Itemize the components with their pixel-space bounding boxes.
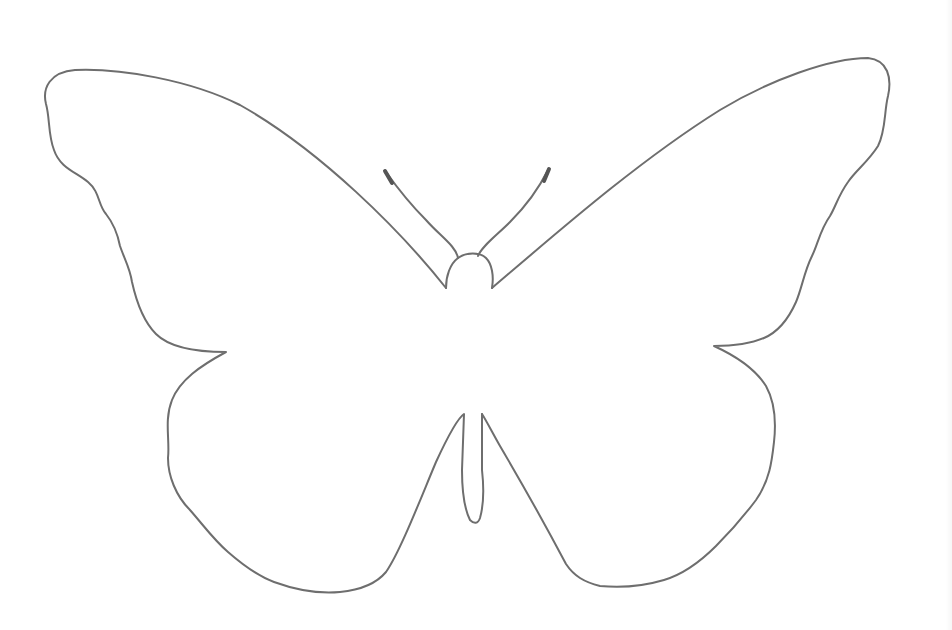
right-wing — [482, 58, 889, 587]
head — [446, 254, 493, 289]
right-antenna-tip-icon — [544, 169, 549, 181]
image-canvas: Butterfly outline — [0, 0, 952, 630]
right-antenna — [478, 170, 548, 256]
butterfly-outline-drawing — [0, 0, 952, 630]
left-antenna-tip-icon — [385, 171, 392, 183]
left-antenna — [386, 172, 458, 258]
right-edge-shadow — [946, 0, 952, 630]
left-wing — [45, 70, 483, 593]
